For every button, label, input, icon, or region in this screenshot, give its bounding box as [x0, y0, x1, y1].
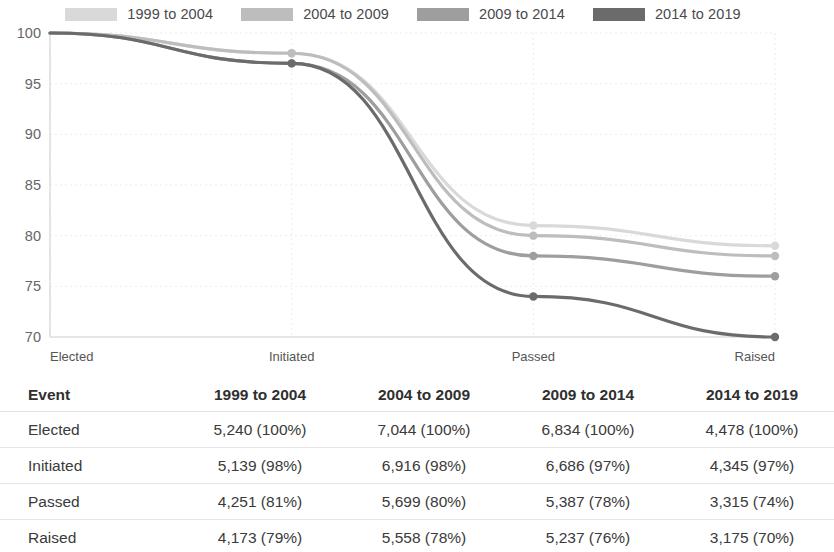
legend-item[interactable]: 2014 to 2019 — [593, 6, 741, 22]
table-cell-value: 6,686 (97%) — [506, 448, 670, 484]
x-axis-tick-label: Passed — [512, 349, 555, 364]
y-axis-tick-labels: 100959085807570 — [17, 28, 41, 345]
table-row: Passed 4,251 (81%) 5,699 (80%) 5,387 (78… — [0, 484, 834, 520]
data-point-marker[interactable] — [287, 49, 295, 57]
data-point-marker[interactable] — [771, 272, 779, 280]
data-point-marker[interactable] — [529, 231, 537, 239]
legend-swatch-1999-2004 — [65, 8, 117, 21]
x-axis-tick-labels: ElectedInitiatedPassedRaised — [50, 349, 775, 364]
table-row: Elected 5,240 (100%) 7,044 (100%) 6,834 … — [0, 412, 834, 448]
data-point-marker[interactable] — [529, 221, 537, 229]
y-axis-tick-label: 80 — [25, 228, 41, 244]
chart-gridlines — [50, 33, 775, 337]
chart-series — [50, 33, 779, 280]
data-table: Event 1999 to 2004 2004 to 2009 2009 to … — [0, 378, 834, 552]
data-point-marker[interactable] — [771, 242, 779, 250]
legend-swatch-2014-2019 — [593, 8, 645, 21]
table-cell-value: 6,916 (98%) — [342, 448, 506, 484]
legend-item-label: 2009 to 2014 — [479, 6, 565, 22]
legend-swatch-2009-2014 — [417, 8, 469, 21]
y-axis-tick-label: 95 — [25, 76, 41, 92]
table-cell-value: 6,834 (100%) — [506, 412, 670, 448]
table-cell-event: Raised — [0, 520, 178, 552]
table-header-2014-2019: 2014 to 2019 — [670, 378, 834, 412]
chart-series-layer — [50, 33, 779, 341]
data-point-marker[interactable] — [771, 333, 779, 341]
table-cell-event: Passed — [0, 484, 178, 520]
data-point-marker[interactable] — [529, 252, 537, 260]
y-axis-tick-label: 70 — [25, 329, 41, 345]
table-cell-value: 5,699 (80%) — [342, 484, 506, 520]
legend-item-label: 2004 to 2009 — [303, 6, 389, 22]
data-point-marker[interactable] — [287, 59, 295, 67]
table-cell-value: 4,251 (81%) — [178, 484, 342, 520]
y-axis-tick-label: 90 — [25, 126, 41, 142]
table-cell-value: 3,175 (70%) — [670, 520, 834, 552]
table-cell-value: 5,237 (76%) — [506, 520, 670, 552]
table-header-1999-2004: 1999 to 2004 — [178, 378, 342, 412]
table-header-event: Event — [0, 378, 178, 412]
x-axis-tick-label: Raised — [735, 349, 775, 364]
table-cell-value: 5,240 (100%) — [178, 412, 342, 448]
table-cell-value: 4,173 (79%) — [178, 520, 342, 552]
table-header-row: Event 1999 to 2004 2004 to 2009 2009 to … — [0, 378, 834, 412]
series-line — [50, 33, 775, 246]
table-cell-value: 3,315 (74%) — [670, 484, 834, 520]
chart-series — [50, 33, 779, 341]
data-point-marker[interactable] — [771, 252, 779, 260]
table-header-2004-2009: 2004 to 2009 — [342, 378, 506, 412]
table-cell-value: 4,478 (100%) — [670, 412, 834, 448]
chart-svg: 100959085807570 ElectedInitiatedPassedRa… — [0, 28, 806, 370]
y-axis-tick-label: 75 — [25, 278, 41, 294]
data-point-marker[interactable] — [529, 292, 537, 300]
table-header-2009-2014: 2009 to 2014 — [506, 378, 670, 412]
line-chart: 100959085807570 ElectedInitiatedPassedRa… — [0, 28, 806, 370]
table-cell-value: 7,044 (100%) — [342, 412, 506, 448]
legend-item-label: 2014 to 2019 — [655, 6, 741, 22]
table-row: Initiated 5,139 (98%) 6,916 (98%) 6,686 … — [0, 448, 834, 484]
table-cell-value: 5,139 (98%) — [178, 448, 342, 484]
table-cell-value: 4,345 (97%) — [670, 448, 834, 484]
legend-item-label: 1999 to 2004 — [127, 6, 213, 22]
series-line — [50, 33, 775, 256]
y-axis-tick-label: 100 — [17, 28, 41, 41]
chart-legend: 1999 to 2004 2004 to 2009 2009 to 2014 2… — [0, 0, 806, 28]
table-cell-event: Elected — [0, 412, 178, 448]
chart-series — [50, 33, 779, 250]
table-row: Raised 4,173 (79%) 5,558 (78%) 5,237 (76… — [0, 520, 834, 552]
table-body: Elected 5,240 (100%) 7,044 (100%) 6,834 … — [0, 412, 834, 552]
table-cell-value: 5,387 (78%) — [506, 484, 670, 520]
series-line — [50, 33, 775, 276]
legend-swatch-2004-2009 — [241, 8, 293, 21]
x-axis-tick-label: Initiated — [269, 349, 315, 364]
y-axis-tick-label: 85 — [25, 177, 41, 193]
table-cell-event: Initiated — [0, 448, 178, 484]
legend-item[interactable]: 2004 to 2009 — [241, 6, 389, 22]
table-cell-value: 5,558 (78%) — [342, 520, 506, 552]
legend-item[interactable]: 2009 to 2014 — [417, 6, 565, 22]
chart-series — [50, 33, 779, 260]
legend-item[interactable]: 1999 to 2004 — [65, 6, 213, 22]
table-header: Event 1999 to 2004 2004 to 2009 2009 to … — [0, 378, 834, 412]
x-axis-tick-label: Elected — [50, 349, 93, 364]
